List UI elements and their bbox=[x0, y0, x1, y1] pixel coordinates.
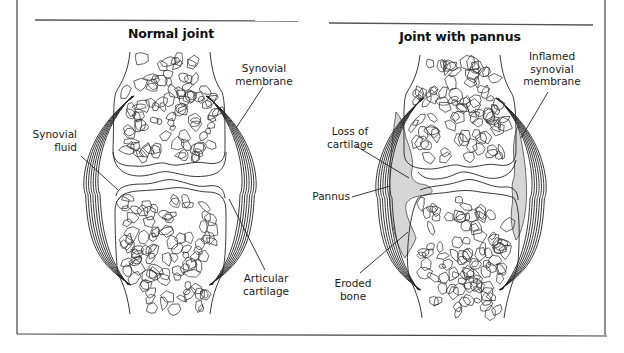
label-synovial-fluid: Synovial fluid bbox=[33, 128, 77, 153]
trabecula bbox=[172, 272, 183, 283]
trabecula bbox=[485, 305, 496, 321]
trabecula bbox=[176, 294, 188, 303]
pannus-title-rule bbox=[329, 23, 593, 25]
label-line: cartilage bbox=[243, 285, 289, 298]
trabecula bbox=[148, 83, 158, 90]
capsule-layer bbox=[93, 96, 133, 285]
trabecula bbox=[151, 102, 160, 112]
label-loss-of-cartilage: Loss of cartilage bbox=[327, 125, 373, 150]
label-line: Synovial bbox=[33, 128, 77, 141]
label-line: membrane bbox=[235, 75, 292, 88]
trabecula bbox=[461, 236, 472, 247]
trabecula bbox=[420, 149, 437, 166]
trabecula bbox=[453, 195, 464, 206]
trabecula bbox=[473, 297, 481, 305]
label-articular-cartilage: Articular cartilage bbox=[243, 272, 289, 297]
trabecula bbox=[453, 306, 464, 319]
trabecular-bone-texture bbox=[114, 49, 518, 321]
trabecula bbox=[480, 84, 492, 99]
trabecula bbox=[417, 252, 426, 259]
trabecula bbox=[198, 130, 209, 143]
trabecula bbox=[198, 84, 213, 97]
trabecula bbox=[424, 58, 436, 70]
trabecula bbox=[184, 232, 193, 244]
trabecula bbox=[430, 212, 442, 224]
label-synovial-membrane: Synovial membrane bbox=[235, 62, 292, 87]
pannus-lower-cartilage bbox=[420, 179, 518, 200]
label-line: Pannus bbox=[312, 190, 350, 203]
trabecula bbox=[485, 95, 494, 103]
figure: Normal joint Joint with pannus Synovial … bbox=[0, 0, 624, 353]
capsule-layer bbox=[207, 96, 247, 285]
trabecula bbox=[169, 198, 181, 209]
trabecula bbox=[206, 121, 216, 131]
normal-lower-cartilage bbox=[116, 180, 225, 198]
leader-synovial-membrane bbox=[236, 87, 263, 128]
trabecula bbox=[131, 49, 151, 69]
trabecula bbox=[471, 260, 479, 267]
trabecula bbox=[204, 139, 218, 150]
label-line: Synovial bbox=[235, 62, 292, 75]
leader-pannus bbox=[352, 186, 390, 197]
trabecula bbox=[437, 241, 444, 253]
trabecula bbox=[474, 76, 480, 88]
trabecula bbox=[488, 71, 503, 84]
trabecula bbox=[469, 258, 481, 269]
trabecula bbox=[426, 111, 438, 123]
label-line: Inflamed bbox=[523, 50, 580, 63]
trabecula bbox=[197, 96, 206, 104]
trabecula bbox=[486, 143, 499, 157]
trabecula bbox=[197, 199, 211, 213]
trabecula bbox=[127, 213, 139, 224]
trabecula bbox=[439, 147, 451, 158]
trabecula bbox=[459, 201, 474, 212]
trabecula bbox=[464, 78, 478, 88]
trabecula bbox=[123, 224, 140, 241]
trabecula bbox=[473, 208, 489, 224]
trabecula bbox=[426, 220, 435, 236]
normal-title-rule bbox=[35, 20, 298, 21]
trabecula bbox=[437, 150, 453, 165]
trabecula bbox=[450, 208, 468, 226]
trabecula bbox=[159, 102, 167, 112]
trabecula bbox=[158, 129, 171, 143]
trabecula bbox=[160, 288, 178, 306]
trabecula bbox=[200, 234, 211, 245]
trabecula bbox=[182, 202, 194, 208]
panel-title-joint-with-pannus: Joint with pannus bbox=[399, 29, 521, 44]
panel-title-normal-joint: Normal joint bbox=[128, 26, 214, 41]
trabecula bbox=[470, 226, 489, 245]
trabecula bbox=[144, 285, 158, 299]
trabecula bbox=[484, 208, 497, 222]
label-inflamed-synovial-membrane: Inflamed synovial membrane bbox=[523, 50, 580, 88]
trabecula bbox=[156, 273, 172, 286]
trabecula bbox=[194, 238, 205, 250]
trabecula bbox=[122, 194, 135, 202]
pannus-joint-drawing bbox=[376, 55, 546, 318]
trabecula bbox=[147, 232, 157, 242]
trabecula bbox=[494, 151, 504, 161]
trabecula bbox=[205, 236, 219, 246]
trabecula bbox=[471, 128, 481, 139]
trabecula bbox=[468, 223, 479, 233]
trabecula bbox=[199, 221, 207, 233]
capsule-layer bbox=[98, 96, 132, 285]
trabecula bbox=[437, 85, 449, 100]
leader-inflamed-membrane bbox=[521, 92, 548, 138]
trabecula bbox=[171, 136, 184, 150]
label-eroded-bone: Eroded bone bbox=[335, 277, 372, 302]
trabecula bbox=[174, 152, 186, 158]
label-line: Eroded bbox=[335, 277, 372, 290]
trabecula bbox=[438, 263, 445, 268]
trabecula bbox=[490, 302, 504, 318]
trabecula bbox=[140, 199, 153, 213]
trabecula bbox=[189, 72, 201, 86]
trabecula bbox=[181, 286, 196, 303]
label-line: Articular bbox=[243, 272, 289, 285]
label-pannus: Pannus bbox=[312, 190, 350, 203]
trabecula bbox=[437, 282, 447, 295]
label-line: bone bbox=[335, 290, 372, 303]
label-line: membrane bbox=[523, 75, 580, 88]
trabecula bbox=[429, 127, 442, 143]
trabecula bbox=[165, 111, 179, 124]
